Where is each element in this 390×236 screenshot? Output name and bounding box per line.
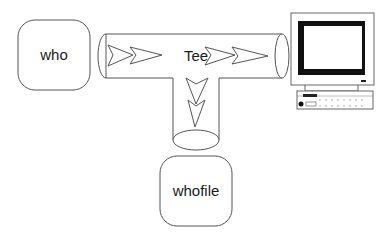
whofile-label: whofile [172, 182, 220, 199]
who-node: who [18, 20, 90, 90]
tee-diagram: who Tee whofile [0, 0, 390, 236]
flow-arrow-icon [186, 78, 208, 127]
computer-monitor-icon [291, 13, 374, 109]
who-label: who [39, 46, 68, 63]
flow-arrow-icon [205, 47, 268, 65]
whofile-node: whofile [160, 156, 232, 226]
tee-label: Tee [184, 47, 208, 64]
tee-pipe: Tee [98, 34, 289, 150]
flow-arrow-icon [108, 45, 162, 66]
